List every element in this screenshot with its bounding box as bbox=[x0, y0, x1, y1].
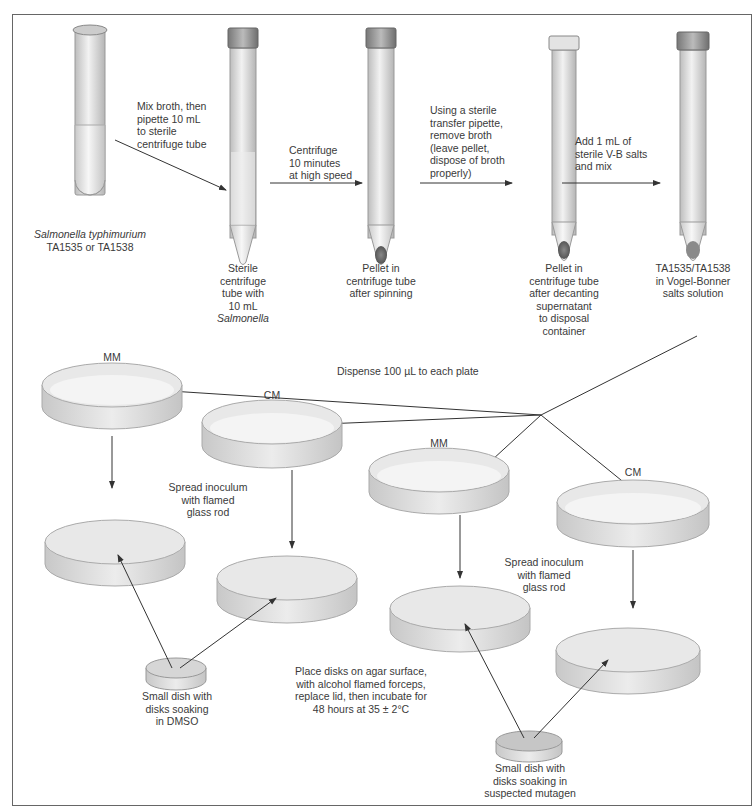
step-line: Add 1 mL of bbox=[575, 135, 647, 148]
instruction-line: replace lid, then incubate for bbox=[286, 690, 436, 703]
small-dish-mutagen-caption: Small dish with disks soaking in suspect… bbox=[478, 762, 582, 800]
culture-species: Salmonella typhimurium bbox=[20, 228, 160, 241]
resuspended-tube bbox=[677, 32, 709, 261]
caption-line: Small dish with bbox=[132, 690, 222, 703]
step-line: transfer pipette, bbox=[430, 117, 505, 130]
instruction-line: Place disks on agar surface, bbox=[286, 665, 436, 678]
caption-line: after decanting bbox=[515, 287, 613, 300]
step-line: to sterile bbox=[137, 125, 206, 138]
place-disks-instructions: Place disks on agar surface, with alcoho… bbox=[286, 665, 436, 715]
caption-line: TA1535/TA1538 bbox=[640, 262, 746, 275]
step-remove-broth: Using a sterile transfer pipette, remove… bbox=[430, 104, 505, 179]
pellet-tube bbox=[366, 28, 396, 265]
plate-label-cm-1: CM bbox=[257, 389, 287, 402]
dispense-label: Dispense 100 µL to each plate bbox=[337, 365, 479, 378]
plate-label-mm-1: MM bbox=[97, 351, 127, 364]
plate-label-cm-2: CM bbox=[618, 466, 648, 479]
culture-strain: TA1535 or TA1538 bbox=[20, 241, 160, 254]
caption-line: Small dish with bbox=[478, 762, 582, 775]
step-add-vb-salts: Add 1 mL of sterile V-B salts and mix bbox=[575, 135, 647, 173]
spread-line: Spread inoculum bbox=[160, 481, 256, 494]
caption-line: 10 mL bbox=[205, 300, 281, 313]
step-line: and mix bbox=[575, 160, 647, 173]
caption-line: disks soaking in bbox=[478, 775, 582, 788]
caption-line: to disposal bbox=[515, 312, 613, 325]
plate-label-mm-2: MM bbox=[424, 437, 454, 450]
caption-line: in Vogel-Bonner bbox=[640, 275, 746, 288]
decanted-tube-caption: Pellet in centrifuge tube after decantin… bbox=[515, 262, 613, 337]
resuspended-tube-caption: TA1535/TA1538 in Vogel-Bonner salts solu… bbox=[640, 262, 746, 300]
caption-line: centrifuge bbox=[205, 275, 281, 288]
plate-mm-2-spread bbox=[390, 586, 530, 652]
plate-cm-1-spread bbox=[217, 556, 357, 623]
instruction-line: 48 hours at 35 ± 2°C bbox=[286, 703, 436, 716]
spread-line: glass rod bbox=[160, 506, 256, 519]
step-line: Centrifuge bbox=[289, 144, 352, 157]
plate-cm-1 bbox=[202, 400, 342, 468]
caption-line: disks soaking bbox=[132, 703, 222, 716]
spread-line: with flamed bbox=[160, 494, 256, 507]
step-line: pipette 10 mL bbox=[137, 113, 206, 126]
small-dish-dmso bbox=[146, 658, 206, 690]
plate-mm-2 bbox=[369, 448, 509, 514]
sterile-centrifuge-tube bbox=[228, 28, 258, 265]
step-line: properly) bbox=[430, 167, 505, 180]
step-line: (leave pellet, bbox=[430, 142, 505, 155]
spread-line: glass rod bbox=[496, 581, 592, 594]
culture-caption: Salmonella typhimurium TA1535 or TA1538 bbox=[20, 228, 160, 253]
caption-line: Salmonella bbox=[205, 312, 281, 325]
caption-line: supernatant bbox=[515, 300, 613, 313]
step-line: dispose of broth bbox=[430, 154, 505, 167]
caption-line: container bbox=[515, 325, 613, 338]
caption-line: centrifuge tube bbox=[515, 275, 613, 288]
caption-line: after spinning bbox=[336, 287, 426, 300]
step-line: Mix broth, then bbox=[137, 100, 206, 113]
step-mix-pipette: Mix broth, then pipette 10 mL to sterile… bbox=[137, 100, 206, 150]
step-line: Using a sterile bbox=[430, 104, 505, 117]
spread-line: Spread inoculum bbox=[496, 556, 592, 569]
step-line: remove broth bbox=[430, 129, 505, 142]
caption-line: tube with bbox=[205, 287, 281, 300]
step-line: sterile V-B salts bbox=[575, 148, 647, 161]
small-dish-mutagen bbox=[496, 731, 562, 762]
spread-line: with flamed bbox=[496, 569, 592, 582]
small-dish-dmso-caption: Small dish with disks soaking in DMSO bbox=[132, 690, 222, 728]
caption-line: suspected mutagen bbox=[478, 787, 582, 800]
caption-line: centrifuge tube bbox=[336, 275, 426, 288]
plate-mm-1 bbox=[42, 363, 182, 429]
step-line: centrifuge tube bbox=[137, 138, 206, 151]
instruction-line: with alcohol flamed forceps, bbox=[286, 678, 436, 691]
caption-line: Pellet in bbox=[336, 262, 426, 275]
spread-inoculum-right: Spread inoculum with flamed glass rod bbox=[496, 556, 592, 594]
step-line: 10 minutes bbox=[289, 157, 352, 170]
caption-line: salts solution bbox=[640, 287, 746, 300]
plate-cm-2 bbox=[557, 480, 709, 547]
caption-line: Pellet in bbox=[515, 262, 613, 275]
spread-inoculum-left: Spread inoculum with flamed glass rod bbox=[160, 481, 256, 519]
sterile-tube-caption: Sterile centrifuge tube with 10 mL Salmo… bbox=[205, 262, 281, 325]
caption-line: Sterile bbox=[205, 262, 281, 275]
pellet-tube-caption: Pellet in centrifuge tube after spinning bbox=[336, 262, 426, 300]
plate-mm-1-spread bbox=[45, 520, 185, 586]
culture-tube bbox=[73, 25, 107, 195]
step-centrifuge: Centrifuge 10 minutes at high speed bbox=[289, 144, 352, 182]
caption-line: in DMSO bbox=[132, 715, 222, 728]
plate-cm-2-spread bbox=[556, 628, 700, 694]
step-line: at high speed bbox=[289, 169, 352, 182]
